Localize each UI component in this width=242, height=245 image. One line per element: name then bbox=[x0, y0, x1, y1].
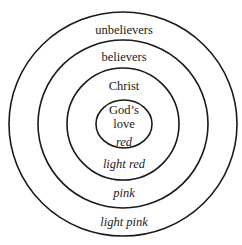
color-label-red: red bbox=[116, 135, 133, 149]
label-believers: believers bbox=[101, 50, 146, 64]
label-christ: Christ bbox=[109, 79, 140, 93]
label-unbelievers: unbelievers bbox=[95, 23, 153, 37]
label-love: love bbox=[113, 117, 135, 131]
label-gods: God’s bbox=[109, 103, 139, 117]
concentric-circles-diagram: unbelievers believers Christ God’s love … bbox=[0, 0, 242, 245]
color-label-light-pink: light pink bbox=[100, 215, 148, 229]
color-label-pink: pink bbox=[112, 186, 135, 200]
color-label-light-red: light red bbox=[103, 157, 146, 171]
